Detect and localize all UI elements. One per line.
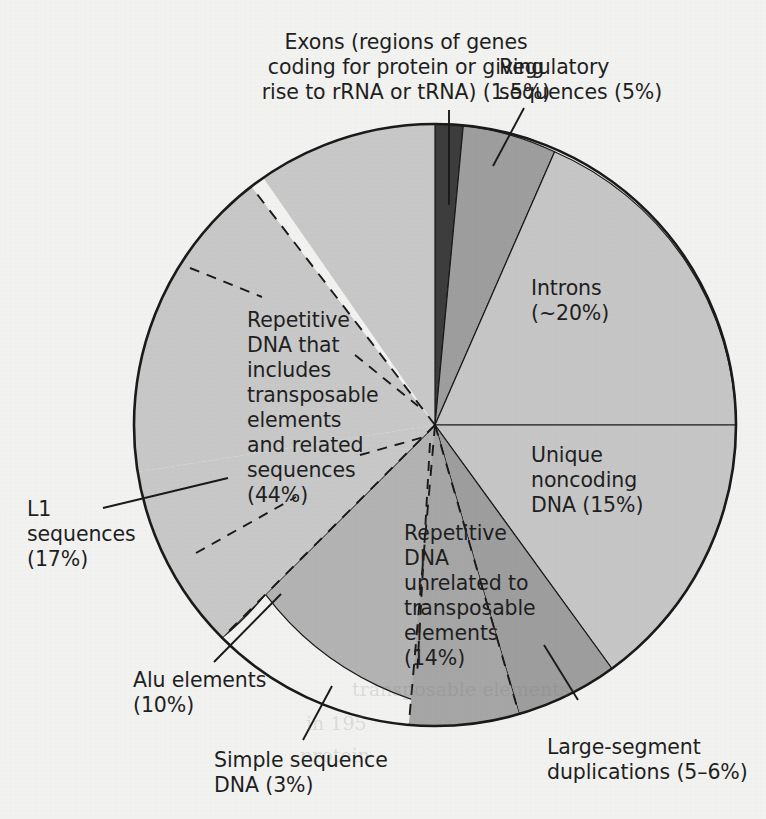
figure-stage: transposable elements in 195 protein Exo…: [0, 0, 766, 819]
label-l1-sequences: L1 sequences (17%): [27, 497, 187, 572]
label-large-segment-duplications: Large-segment duplications (5–6%): [547, 735, 766, 785]
label-regulatory-sequences: Regulatory sequences (5%): [499, 55, 766, 105]
label-unique-noncoding-dna: Unique noncoding DNA (15%): [531, 443, 731, 518]
label-repetitive-dna-unrelated: Repetitive DNA unrelated to transposable…: [404, 521, 554, 671]
label-alu-elements: Alu elements (10%): [133, 668, 353, 718]
label-introns: Introns (~20%): [531, 276, 711, 326]
label-repetitive-dna-transposable: Repetitive DNA that includes transposabl…: [247, 308, 467, 508]
label-simple-sequence-dna: Simple sequence DNA (3%): [214, 748, 454, 798]
